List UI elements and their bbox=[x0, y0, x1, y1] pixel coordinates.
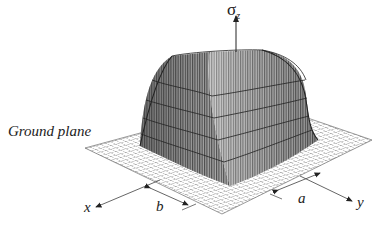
y-axis-arrow bbox=[300, 176, 352, 201]
dimension-b-label: b bbox=[156, 198, 164, 215]
x-axis-label: x bbox=[84, 199, 91, 216]
x-axis-arrow bbox=[96, 180, 160, 207]
y-axis-label: y bbox=[357, 194, 364, 211]
dimension-a-label: a bbox=[298, 190, 306, 207]
stress-surface-diagram bbox=[0, 0, 390, 226]
ground-plane-label: Ground plane bbox=[8, 123, 91, 140]
sigma-z-label: σz bbox=[227, 0, 240, 21]
